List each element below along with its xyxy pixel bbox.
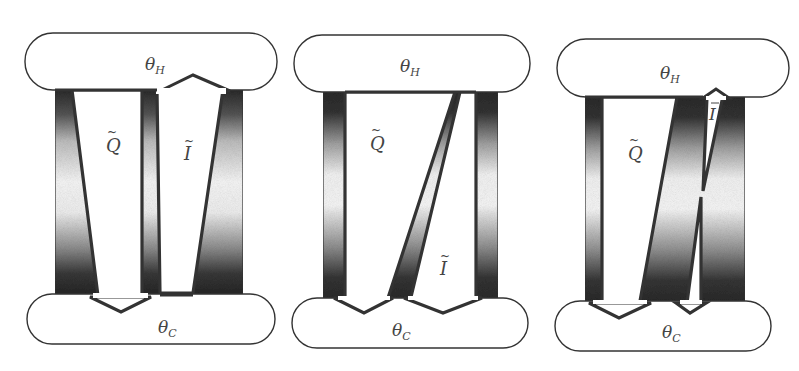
i-label: I [708,104,716,124]
i-tilde: ~ [440,249,450,263]
tip-mask [408,296,478,300]
panel-2: θH θC Q ~ I ~ [292,35,530,348]
tip-mask [93,293,148,298]
hot-reservoir [557,39,789,97]
q-tilde: ~ [107,125,117,139]
hot-reservoir [294,35,530,92]
tip-mask [593,300,647,304]
heat-flow-diagram: θH θC Q ~ I ~ θH θC Q ~ I ~ [0,0,799,371]
q-tilde: ~ [371,123,381,137]
tip-mask [156,88,226,94]
panel-1: θH θC Q ~ I ~ [25,33,277,344]
tip-mask [706,96,726,100]
tip-mask [338,296,390,300]
cold-reservoir [27,294,275,344]
panel-3: θH θC Q ~ I [555,39,789,351]
q-tilde: ~ [629,133,639,147]
i-tilde: ~ [184,134,194,148]
tip-mask [680,300,702,304]
